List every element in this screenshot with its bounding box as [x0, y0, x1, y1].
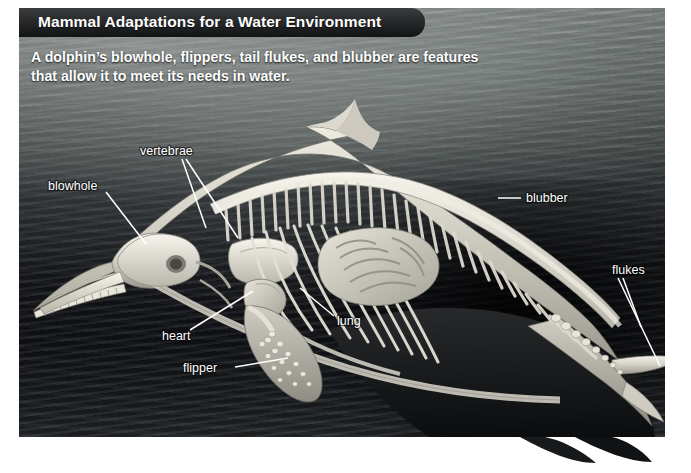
- lung-organ: [318, 228, 439, 306]
- skull-and-jaw-bones: [40, 234, 232, 314]
- background-dolphin-silhouette: [330, 308, 655, 463]
- caption-line-2: that allow it to meet its needs in water…: [31, 67, 571, 86]
- title-bar: Mammal Adaptations for a Water Environme…: [19, 8, 425, 37]
- caption-text: A dolphin’s blowhole, flippers, tail flu…: [31, 48, 571, 85]
- page-title: Mammal Adaptations for a Water Environme…: [38, 13, 381, 31]
- figure-container: vertebrae blowhole blubber flukes lung h…: [0, 0, 691, 473]
- caption-line-1: A dolphin’s blowhole, flippers, tail flu…: [31, 48, 571, 67]
- flipper: [244, 306, 322, 402]
